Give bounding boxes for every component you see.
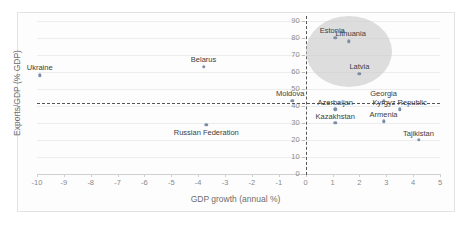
x-tick-label: 4 <box>403 179 423 187</box>
data-point-label: Tajikistan <box>403 130 434 138</box>
y-tick-label: 90 <box>280 17 300 25</box>
y-tick-label: 30 <box>280 119 300 127</box>
x-axis-line <box>37 174 440 175</box>
x-tick-label: -8 <box>81 179 101 187</box>
data-point <box>334 121 337 124</box>
x-tick-mark <box>91 174 92 177</box>
data-point-label: Ukraine <box>27 64 53 72</box>
data-point-label: Azerbaijan <box>317 99 352 107</box>
data-point <box>202 65 205 68</box>
data-point-label: Georgia <box>370 90 397 98</box>
x-tick-mark <box>333 174 334 177</box>
data-point <box>38 74 41 77</box>
x-tick-mark <box>440 174 441 177</box>
x-tick-mark <box>252 174 253 177</box>
x-tick-label: -1 <box>269 179 289 187</box>
x-tick-label: -9 <box>54 179 74 187</box>
data-point-label: Kazakhstan <box>316 113 355 121</box>
x-tick-mark <box>413 174 414 177</box>
y-tick-label: 10 <box>280 153 300 161</box>
x-tick-mark <box>64 174 65 177</box>
data-point-label: Latvia <box>349 63 369 71</box>
x-tick-label: -6 <box>134 179 154 187</box>
x-tick-label: -5 <box>161 179 181 187</box>
data-point-label: Armenia <box>370 111 398 119</box>
data-point-label: Lithuania <box>335 30 365 38</box>
data-point <box>417 138 420 141</box>
x-tick-label: -4 <box>188 179 208 187</box>
x-tick-label: -7 <box>108 179 128 187</box>
y-tick-mark <box>302 157 305 158</box>
y-tick-mark <box>302 123 305 124</box>
gridline <box>37 123 440 124</box>
y-tick-mark <box>302 38 305 39</box>
x-tick-label: 1 <box>323 179 343 187</box>
x-tick-mark <box>386 174 387 177</box>
y-tick-mark <box>302 106 305 107</box>
x-tick-label: -2 <box>242 179 262 187</box>
baltic-cluster-ellipse <box>306 16 392 87</box>
scatter-plot: 0102030405060708090 -10-9-8-7-6-5-4-3-2-… <box>0 0 471 230</box>
x-tick-mark <box>37 174 38 177</box>
y-tick-label: 60 <box>280 68 300 76</box>
y-tick-label: 80 <box>280 34 300 42</box>
x-tick-mark <box>118 174 119 177</box>
x-tick-label: -3 <box>215 179 235 187</box>
y-tick-label: 20 <box>280 136 300 144</box>
x-tick-label: 2 <box>349 179 369 187</box>
gridline <box>37 21 440 22</box>
y-tick-label: 70 <box>280 51 300 59</box>
x-tick-mark <box>225 174 226 177</box>
zero-growth-line <box>306 16 307 175</box>
y-axis-title: Exports/GDP (% GDP) <box>12 38 22 148</box>
x-axis-title: GDP growth (annual %) <box>0 194 471 204</box>
data-point <box>398 108 401 111</box>
y-tick-mark <box>302 174 305 175</box>
data-point <box>334 108 337 111</box>
data-point <box>205 123 208 126</box>
data-point-label: Kyrgyz Republic <box>373 99 427 107</box>
x-tick-mark <box>144 174 145 177</box>
x-tick-label: 5 <box>430 179 450 187</box>
x-tick-mark <box>279 174 280 177</box>
x-tick-label: 3 <box>376 179 396 187</box>
data-point-label: Moldova <box>276 90 304 98</box>
data-point-label: Belarus <box>191 56 216 64</box>
data-point-label: Russian Federation <box>174 129 239 137</box>
y-tick-mark <box>302 72 305 73</box>
y-tick-mark <box>302 21 305 22</box>
y-tick-mark <box>302 140 305 141</box>
x-tick-mark <box>171 174 172 177</box>
x-tick-mark <box>359 174 360 177</box>
gridline <box>37 157 440 158</box>
y-tick-label: 0 <box>280 170 300 178</box>
y-tick-mark <box>302 55 305 56</box>
x-tick-label: -10 <box>27 179 47 187</box>
x-tick-label: 0 <box>296 179 316 187</box>
x-tick-mark <box>198 174 199 177</box>
gridline <box>37 140 440 141</box>
